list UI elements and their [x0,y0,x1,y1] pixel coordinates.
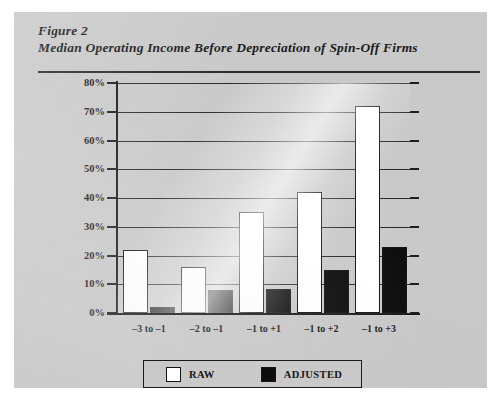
x-axis-line [107,313,420,315]
legend-label-adjusted: ADJUSTED [284,369,343,380]
legend-label-raw: RAW [189,369,215,380]
figure-title: Median Operating Income Before Depreciat… [38,39,462,56]
ylabel-60: 60% [61,135,105,146]
ytick-80-right [410,82,419,84]
ytick-30-right [410,226,419,228]
caption-divider [38,71,480,73]
ylabel-10: 10% [61,278,105,289]
bar-adjusted-4 [382,247,407,313]
bar-adjusted-2 [266,289,291,313]
ytick-80-left [107,82,116,84]
y-axis-line [116,81,118,315]
figure-panel: Figure 2 Median Operating Income Before … [14,12,487,388]
bar-raw-4 [355,106,380,313]
ylabel-30: 30% [61,221,105,232]
ytick-70-right [410,111,419,113]
ytick-60-right [410,140,419,142]
bar-adjusted-1 [208,290,233,313]
ytick-60-left [107,140,116,142]
chart-legend: RAW ADJUSTED [143,360,362,388]
ylabel-40: 40% [61,192,105,203]
ylabel-0: 0% [61,307,105,318]
bar-raw-3 [297,192,322,313]
ytick-20-right [410,255,419,257]
figure-number: Figure 2 [38,22,462,39]
bar-raw-1 [181,267,206,313]
ytick-30-left [107,226,116,228]
ylabel-20: 20% [61,250,105,261]
ylabel-80: 80% [61,77,105,88]
bar-raw-2 [239,212,264,313]
ytick-50-right [410,168,419,170]
legend-item-raw: RAW [166,367,215,382]
xlabel-4: –1 to +3 [343,323,415,334]
figure-caption: Figure 2 Median Operating Income Before … [38,22,462,56]
bar-chart: 80% 70% 60% 50% 40% 30% 20% 10% 0% –3 to… [117,83,410,313]
ytick-70-left [107,111,116,113]
ytick-10-right [410,283,419,285]
bar-adjusted-3 [324,270,349,313]
legend-item-adjusted: ADJUSTED [261,367,343,382]
bar-raw-0 [123,250,148,313]
ytick-10-left [107,283,116,285]
ytick-50-left [107,168,116,170]
ytick-20-left [107,255,116,257]
adjusted-swatch-icon [261,367,276,382]
ytick-40-right [410,197,419,199]
gridline-80 [117,83,410,84]
raw-swatch-icon [166,367,181,382]
ylabel-50: 50% [61,163,105,174]
ylabel-70: 70% [61,106,105,117]
ytick-40-left [107,197,116,199]
